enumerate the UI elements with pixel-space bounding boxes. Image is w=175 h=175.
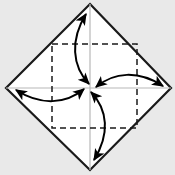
diagram-canvas [0, 0, 175, 175]
origami-fold-diagram [0, 0, 175, 175]
